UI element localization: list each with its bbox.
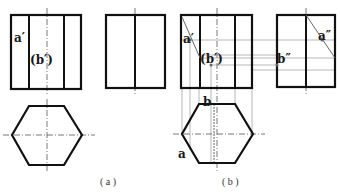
label-a-prime: a′ <box>14 31 25 45</box>
panel-a-front-view: a′ (b′) <box>11 8 81 96</box>
hexagon-outline <box>182 104 253 163</box>
panel-a-side-view <box>106 8 165 96</box>
front-view-outline <box>11 15 81 89</box>
projection-figure: a′ (b′) ( a ) <box>0 0 340 196</box>
panel-b-top-view: b a <box>173 95 265 172</box>
caption-b: ( b ) <box>222 176 239 188</box>
panel-b-side-view: a″ b″ <box>276 8 336 96</box>
label-a-double-prime: a″ <box>318 29 332 43</box>
panel-a-top-view <box>3 99 95 172</box>
label-a: a <box>178 147 186 161</box>
label-b-double-prime: b″ <box>277 52 291 66</box>
panel-a: a′ (b′) ( a ) <box>3 8 165 188</box>
panel-b: a′ (b′) a″ b″ b a <box>173 8 335 188</box>
label-b: b <box>203 95 211 109</box>
label-b-prime: (b′) <box>200 52 223 66</box>
label-a-prime: a′ <box>183 32 194 46</box>
panel-b-front-view: a′ (b′) <box>181 8 252 96</box>
label-b-prime: (b′) <box>30 53 53 67</box>
caption-a: ( a ) <box>100 176 116 188</box>
